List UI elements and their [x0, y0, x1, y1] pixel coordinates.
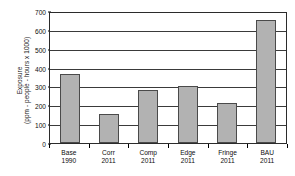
x-axis-category-label: Edge2011: [168, 149, 208, 165]
x-label-name: Base: [49, 149, 89, 157]
x-tick-mark: [247, 144, 248, 148]
bar[interactable]: [256, 20, 276, 143]
x-axis-category-label: Comp2011: [128, 149, 168, 165]
x-tick-mark: [49, 144, 50, 148]
x-tick-mark: [208, 144, 209, 148]
y-tick-label: 400: [35, 65, 46, 72]
bar[interactable]: [138, 90, 158, 143]
x-label-name: Corr: [89, 149, 129, 157]
x-label-year: 2011: [208, 157, 248, 165]
y-tick-label: 700: [35, 9, 46, 16]
x-label-year: 2011: [128, 157, 168, 165]
x-axis-category-label: BAU2011: [247, 149, 287, 165]
bar-cell: [129, 13, 168, 143]
y-axis-ticks: 0100200300400500600700: [30, 12, 48, 144]
y-tick-label: 300: [35, 84, 46, 91]
bar-series: [50, 13, 286, 143]
x-label-name: Fringe: [208, 149, 248, 157]
x-tick-mark: [128, 144, 129, 148]
x-label-year: 2011: [89, 157, 129, 165]
x-tick-mark: [287, 144, 288, 148]
x-label-name: BAU: [247, 149, 287, 157]
bar-chart: Exposure (ppm - people - hours x 1000) 0…: [0, 0, 295, 176]
x-label-year: 2011: [168, 157, 208, 165]
x-axis-category-label: Fringe2011: [208, 149, 248, 165]
x-axis-category-label: Corr2011: [89, 149, 129, 165]
x-tick-mark: [168, 144, 169, 148]
bar-cell: [168, 13, 207, 143]
y-tick-label: 100: [35, 122, 46, 129]
x-label-name: Edge: [168, 149, 208, 157]
x-axis-ticks: [49, 144, 287, 148]
bar-cell: [247, 13, 286, 143]
plot-area: [49, 12, 287, 144]
x-axis-category-label: Base1990: [49, 149, 89, 165]
y-tick-label: 500: [35, 46, 46, 53]
bar[interactable]: [178, 86, 198, 143]
y-tick-label: 0: [42, 141, 46, 148]
x-label-year: 2011: [247, 157, 287, 165]
x-tick-mark: [89, 144, 90, 148]
bar[interactable]: [217, 103, 237, 143]
bar[interactable]: [99, 114, 119, 143]
y-tick-label: 600: [35, 27, 46, 34]
bar-cell: [207, 13, 246, 143]
x-label-name: Comp: [128, 149, 168, 157]
x-label-year: 1990: [49, 157, 89, 165]
bar-cell: [50, 13, 89, 143]
y-tick-label: 200: [35, 103, 46, 110]
x-axis-labels: Base1990Corr2011Comp2011Edge2011Fringe20…: [49, 149, 287, 165]
bar[interactable]: [60, 74, 80, 143]
bar-cell: [89, 13, 128, 143]
